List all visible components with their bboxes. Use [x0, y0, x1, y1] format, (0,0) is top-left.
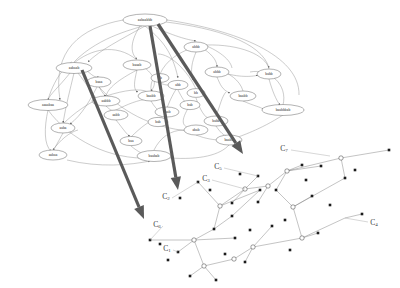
node-label: babb [265, 72, 272, 76]
cluster-label-subscript: 6 [158, 224, 161, 229]
graph-node[interactable]: baabbbab [262, 105, 304, 116]
graph-node-small[interactable] [361, 213, 364, 216]
graph-node-small[interactable] [259, 189, 262, 192]
graph-node[interactable]: baab [155, 107, 179, 117]
graph-node-small[interactable] [234, 237, 237, 240]
graph-hub-node[interactable] [291, 205, 295, 209]
graph-node-small[interactable] [167, 259, 170, 262]
graph-node-small[interactable] [239, 173, 242, 176]
node-label: bab [187, 103, 193, 107]
graph-node[interactable]: abbb [205, 67, 229, 77]
node-label: babb [212, 119, 219, 123]
graph-node-small[interactable] [311, 195, 314, 198]
graph-hub-node[interactable] [251, 245, 255, 249]
cluster-label-subscript: 7 [285, 148, 288, 153]
node-label: aabaab [69, 66, 80, 70]
graph-node[interactable]: abb [168, 80, 188, 89]
cluster-label-subscript: 1 [168, 248, 171, 253]
right-graph-nodes [149, 149, 391, 282]
graph-node-small[interactable] [305, 179, 308, 182]
node-label: baabb [146, 94, 155, 98]
graph-node[interactable]: aabb [104, 110, 128, 120]
graph-node-small[interactable] [257, 201, 260, 204]
graph-node-small[interactable] [275, 189, 278, 192]
graph-node-small[interactable] [344, 177, 347, 180]
graph-node[interactable]: aabaabbb [123, 14, 167, 26]
graph-node-small[interactable] [320, 165, 323, 168]
node-label: baabb [238, 94, 247, 98]
node-label: baaa [96, 80, 103, 84]
graph-node-small[interactable] [215, 279, 218, 282]
graph-hub-node[interactable] [339, 156, 343, 160]
graph-svg: aabaabbbaabaabbaaababbbabbbbabbbaabbbaab… [0, 0, 400, 288]
graph-node-small[interactable] [301, 164, 304, 167]
graph-hub-node[interactable] [300, 236, 304, 240]
graph-node[interactable]: aaaabaa [28, 100, 68, 111]
node-label: abbb [213, 70, 220, 74]
node-label: baabab [149, 154, 160, 158]
graph-node-small[interactable] [289, 249, 292, 252]
graph-node-small[interactable] [329, 204, 332, 207]
graph-node-small[interactable] [231, 202, 234, 205]
graph-node[interactable]: aaba [51, 123, 75, 133]
graph-hub-node[interactable] [285, 169, 289, 173]
cluster-label-c3: C3 [202, 174, 210, 183]
graph-node-small[interactable] [209, 189, 212, 192]
cluster-label-c1: C1 [163, 244, 171, 253]
arrow-head [171, 176, 181, 190]
node-label: bab [155, 120, 161, 124]
node-label: aabaa [49, 153, 58, 157]
graph-node[interactable]: babb [257, 69, 281, 79]
node-label: aabb [112, 113, 119, 117]
graph-node-small[interactable] [231, 215, 234, 218]
graph-node[interactable]: aabaab [56, 63, 92, 74]
graph-node-small[interactable] [354, 169, 357, 172]
cluster-label-subscript: 2 [167, 196, 170, 201]
cluster-label-c5: C5 [214, 162, 222, 171]
node-label: bb [194, 91, 198, 95]
graph-node-small[interactable] [224, 253, 227, 256]
graph-node-small[interactable] [249, 229, 252, 232]
node-label: abb [175, 83, 181, 87]
graph-node[interactable]: baabb [230, 91, 256, 101]
graph-node[interactable]: baa [120, 136, 142, 145]
node-label: baaab [133, 63, 142, 67]
cluster-label-c7: C7 [280, 144, 288, 153]
graph-node-small[interactable] [179, 197, 182, 200]
figure-canvas: aabaabbbaabaabbaaababbbabbbbabbbaabbbaab… [0, 0, 400, 288]
arrow-head [134, 205, 144, 219]
graph-hub-node[interactable] [232, 257, 236, 261]
graph-node-small[interactable] [388, 149, 391, 152]
graph-node[interactable]: bab [180, 100, 200, 109]
cluster-label-c4: C4 [370, 218, 378, 227]
graph-hub-node[interactable] [266, 184, 270, 188]
graph-node[interactable]: aabaa [39, 150, 67, 160]
graph-node[interactable]: abab [184, 125, 208, 135]
graph-node-small[interactable] [317, 232, 320, 235]
graph-node-small[interactable] [284, 219, 287, 222]
graph-node[interactable]: baaab [123, 60, 151, 70]
node-label: aaba [60, 126, 67, 130]
graph-hub-node[interactable] [202, 264, 206, 268]
graph-node-small[interactable] [159, 243, 162, 246]
node-label: abab [192, 128, 199, 132]
graph-node-small[interactable] [244, 261, 247, 264]
cluster-label-group: C7C5C3C2C6C1C4 [153, 144, 378, 253]
graph-hub-node[interactable] [192, 238, 196, 242]
graph-node-small[interactable] [271, 225, 274, 228]
node-label: aabbb [101, 99, 110, 103]
node-label: aaaabaa [42, 103, 54, 107]
cluster-label-c2: C2 [162, 192, 170, 201]
graph-node[interactable]: abbb [184, 42, 208, 52]
cluster-label-c6: C6 [153, 220, 161, 229]
node-label: aabaabbb [138, 18, 152, 22]
graph-hub-node[interactable] [218, 204, 222, 208]
graph-node[interactable]: baaa [87, 77, 111, 87]
right-graph-edges [150, 150, 389, 280]
graph-node[interactable]: baabab [137, 151, 171, 162]
left-graph-edges [45, 20, 299, 165]
graph-node-small[interactable] [189, 275, 192, 278]
node-label: baa [128, 139, 134, 143]
graph-node-small[interactable] [213, 228, 216, 231]
cluster-label-subscript: 3 [207, 178, 210, 183]
